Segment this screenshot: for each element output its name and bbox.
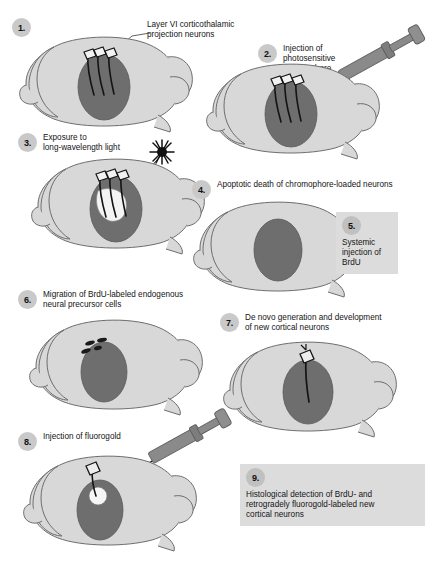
step-6-caption-group: 6. Migration of BrdU-labeled endogenous …: [18, 290, 203, 310]
figure-panel: 1. Layer VI corticothalamic projection n…: [0, 0, 442, 567]
step-label: Histological detection of BrdU- and retr…: [246, 490, 419, 520]
step-number-badge: 6.: [18, 290, 37, 309]
step-number-badge: 8.: [18, 432, 37, 451]
brain-lateral-icon: [205, 60, 383, 160]
brain-lateral-icon: [30, 155, 208, 255]
step-label: Exposure to long-wavelength light: [43, 133, 120, 153]
step-4-caption-group: 4. Apoptotic death of chromophore-loaded…: [192, 180, 437, 199]
brain-lateral-icon: [22, 452, 200, 552]
step-number-badge: 3.: [18, 133, 37, 152]
step-label: Systemic injection of BrdU: [342, 238, 392, 268]
brain-lateral-icon: [18, 33, 196, 133]
step-number-badge: 4.: [192, 180, 211, 199]
step-label: Apoptotic death of chromophore-loaded ne…: [217, 180, 393, 190]
step-5-box: 5. Systemic injection of BrdU: [336, 212, 398, 274]
step-label: De novo generation and development of ne…: [245, 313, 382, 333]
step-number-badge: 7.: [220, 313, 239, 332]
step-7-caption-group: 7. De novo generation and development of…: [220, 313, 420, 333]
step-number-badge: 5.: [342, 216, 361, 235]
step-9-box: 9. Histological detection of BrdU- and r…: [240, 464, 425, 526]
migrating-cells-icon: [28, 316, 206, 416]
step-label: Migration of BrdU-labeled endogenous neu…: [43, 290, 183, 310]
step-number-badge: 9.: [246, 468, 265, 487]
